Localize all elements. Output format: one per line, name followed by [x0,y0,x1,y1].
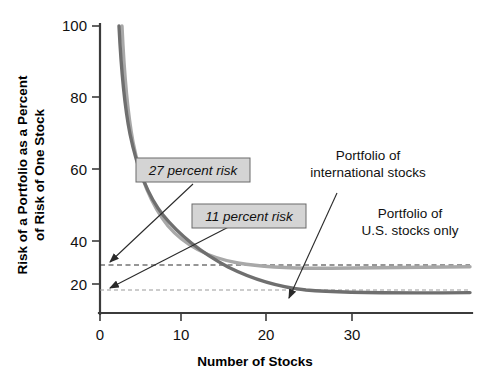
x-tick-label-20: 20 [258,326,275,343]
x-tick-label-30: 30 [344,326,361,343]
x-tick-label-10: 10 [173,326,190,343]
chart-canvas: 100 80 60 40 20 0 10 20 30 Number of Sto… [0,0,493,383]
chart-background [0,0,493,383]
box-label-27-percent-risk: 27 percent risk [136,158,250,182]
callout-us-line2: U.S. stocks only [362,223,459,238]
callout-international-line1: Portfolio of [336,148,401,163]
callout-international-line2: international stocks [310,165,426,180]
box-label-11-percent-risk: 11 percent risk [192,204,306,228]
y-axis-title-line2: of Risk of One Stock [32,109,47,242]
x-axis-title: Number of Stocks [197,354,313,369]
callout-us-line1: Portfolio of [378,206,443,221]
y-tick-label-40: 40 [70,233,87,250]
box-label-27-text: 27 percent risk [148,163,239,178]
risk-diversification-chart: 100 80 60 40 20 0 10 20 30 Number of Sto… [0,0,493,383]
y-tick-label-100: 100 [62,17,87,34]
box-label-11-text: 11 percent risk [205,209,294,224]
x-tick-label-0: 0 [96,326,104,343]
y-tick-label-60: 60 [70,161,87,178]
y-tick-label-20: 20 [70,276,87,293]
y-axis-title-line1: Risk of a Portfolio as a Percent [15,75,30,274]
y-tick-label-80: 80 [70,89,87,106]
